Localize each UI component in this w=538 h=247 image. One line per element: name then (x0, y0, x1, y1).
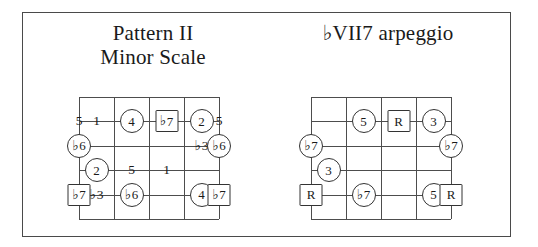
note-marker: R (387, 110, 410, 132)
fret-line (114, 97, 115, 219)
note-degree-label: 6 (79, 139, 86, 152)
note-marker: ♭7 (155, 110, 178, 132)
note-marker: 5 (127, 163, 136, 177)
flat-accidental-icon: ♭ (90, 188, 97, 202)
note-degree-label: 6 (219, 139, 226, 152)
panel-title-line2: Minor Scale (43, 45, 263, 69)
note-degree-label: 5 (76, 115, 83, 129)
note-marker: ♭6 (207, 134, 231, 158)
flat-accidental-icon: ♭ (125, 188, 132, 202)
note-degree-label: 3 (325, 164, 332, 177)
note-degree-label: 2 (198, 115, 205, 128)
fretboard-panel-arpeggio: ♭VII7 arpeggio 5R3♭7♭73R♭75R (273, 13, 503, 236)
note-marker: 2 (85, 158, 109, 182)
note-marker: ♭7 (299, 134, 323, 158)
note-degree-label: 7 (364, 188, 371, 201)
note-degree-label: 1 (93, 115, 100, 129)
panel-title-arpeggio: ♭VII7 arpeggio (273, 21, 503, 45)
flat-accidental-icon: ♭ (212, 139, 219, 153)
note-degree-label: 7 (79, 188, 86, 201)
note-marker: 1 (162, 163, 171, 177)
note-marker: 5 (75, 115, 84, 129)
note-marker: ♭7 (352, 183, 376, 207)
panel-title-line1: ♭VII7 arpeggio (322, 21, 453, 45)
panel-title-minor-scale: Pattern II Minor Scale (43, 21, 263, 69)
fret-line (184, 97, 185, 219)
note-marker: 5 (352, 109, 376, 133)
note-degree-label: 7 (451, 139, 458, 152)
fretboard-grid-arpeggio: 5R3♭7♭73R♭75R (311, 97, 451, 219)
note-marker: R (440, 184, 463, 206)
flat-accidental-icon: ♭ (72, 139, 79, 153)
note-degree-label: R (307, 188, 316, 201)
note-degree-label: 3 (97, 188, 104, 202)
note-marker: 1 (92, 115, 101, 129)
note-degree-label: 5 (360, 115, 367, 128)
note-degree-label: 6 (132, 188, 139, 201)
note-marker: 3 (422, 109, 446, 133)
note-degree-label: 7 (219, 188, 226, 201)
flat-accidental-icon: ♭ (304, 139, 311, 153)
note-marker: ♭6 (120, 183, 144, 207)
flat-accidental-icon: ♭ (195, 139, 202, 153)
note-degree-label: 5 (430, 188, 437, 201)
note-degree-label: 4 (128, 115, 135, 128)
note-marker: 2 (190, 109, 214, 133)
flat-accidental-icon: ♭ (160, 114, 167, 128)
note-degree-label: R (394, 115, 403, 128)
note-degree-label: 4 (198, 188, 205, 201)
panel-title-line1: Pattern II (113, 21, 194, 45)
string-line (311, 219, 451, 220)
note-marker: ♭7 (208, 184, 231, 206)
flat-accidental-icon: ♭ (444, 139, 451, 153)
note-degree-label: 3 (430, 115, 437, 128)
note-marker: ♭7 (68, 184, 91, 206)
flat-accidental-icon: ♭ (72, 188, 79, 202)
fret-line (149, 97, 150, 219)
note-marker: ♭3 (89, 188, 105, 202)
fret-line (381, 97, 382, 219)
note-marker: ♭6 (67, 134, 91, 158)
flat-accidental-icon: ♭ (357, 188, 364, 202)
fret-line (416, 97, 417, 219)
flat-accidental-icon: ♭ (212, 188, 219, 202)
note-degree-label: 5 (128, 163, 135, 177)
fret-line (346, 97, 347, 219)
note-degree-label: R (447, 188, 456, 201)
note-marker: ♭7 (439, 134, 463, 158)
fretboard-panel-minor-scale: Pattern II Minor Scale 514♭725♭6♭3♭6251♭… (43, 13, 263, 236)
note-degree-label: 5 (216, 115, 223, 129)
note-degree-label: 1 (163, 163, 170, 177)
string-line (79, 219, 219, 220)
note-degree-label: 7 (167, 115, 174, 128)
note-marker: R (300, 184, 323, 206)
note-marker: 5 (215, 115, 224, 129)
note-marker: 3 (317, 158, 341, 182)
fretboard-grid-minor-scale: 514♭725♭6♭3♭6251♭7♭3♭64♭7 (79, 97, 219, 219)
note-degree-label: 7 (311, 139, 318, 152)
note-degree-label: 2 (93, 164, 100, 177)
note-marker: 4 (120, 109, 144, 133)
diagram-outer-frame: Pattern II Minor Scale 514♭725♭6♭3♭6251♭… (22, 12, 511, 237)
